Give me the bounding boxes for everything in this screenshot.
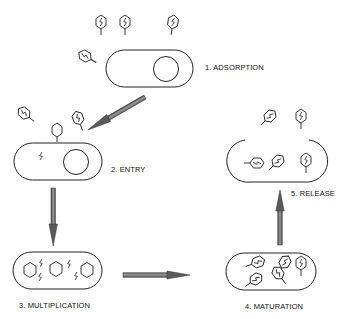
stage-label-maturation: 4. MATURATION <box>245 302 303 311</box>
stage-5-release <box>227 108 328 183</box>
bacterial-cell <box>106 50 193 87</box>
phage-icon <box>301 153 311 173</box>
phage-icon <box>296 256 306 276</box>
phage-icon <box>296 109 306 129</box>
phage-icon <box>76 48 98 67</box>
phage-icon <box>71 110 87 132</box>
phage-head-icon <box>81 263 93 278</box>
stage-label-multiplication: 3. MULTIPLICATION <box>19 301 90 310</box>
viral-dna-icon <box>39 273 42 281</box>
phage-head-icon <box>50 262 62 277</box>
phage-icon <box>166 14 179 35</box>
phage-icon <box>15 105 37 126</box>
phage-icon <box>244 255 266 271</box>
stage-4-maturation <box>226 253 316 291</box>
lytic-cycle-diagram <box>0 0 356 319</box>
phage-icon <box>242 271 264 291</box>
stage-3-multiplication <box>13 252 102 289</box>
arrow-multiplication-to-maturation <box>123 271 190 279</box>
phage-icon <box>96 15 106 35</box>
stage-label-adsorption: 1. ADSORPTION <box>205 63 264 72</box>
viral-dna-icon <box>75 272 78 280</box>
phage-head-icon <box>24 263 36 278</box>
cell-nucleoid <box>154 57 179 82</box>
viral-dna-icon <box>68 260 71 268</box>
stage-label-entry: 2. ENTRY <box>111 165 145 174</box>
arrow-entry-to-multiplication <box>49 188 57 246</box>
stage-label-release: 5. RELEASE <box>291 189 335 198</box>
viral-dna-icon <box>40 259 43 267</box>
viral-dna-icon <box>40 152 43 160</box>
empty-phage-icon <box>52 123 62 142</box>
cell-nucleoid <box>64 150 89 175</box>
phage-icon <box>265 153 286 174</box>
arrow-adsorption-to-entry <box>86 94 147 134</box>
phage-icon <box>244 158 264 168</box>
phage-icon <box>120 15 130 35</box>
stage-2-entry <box>14 105 102 180</box>
stage-1-adsorption <box>76 14 193 87</box>
arrow-maturation-to-release <box>276 190 284 245</box>
phage-icon <box>257 108 278 129</box>
